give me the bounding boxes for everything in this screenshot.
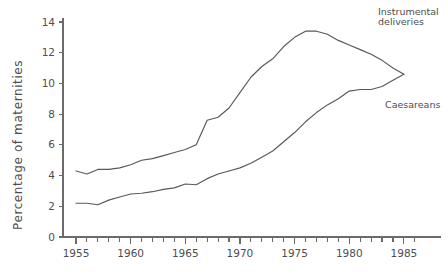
x-tick-label-1980: 1980 xyxy=(336,247,363,259)
y-tick-label-0: 0 xyxy=(48,231,55,243)
chart-svg: Percentage of maternities 02468101214 19… xyxy=(0,0,448,274)
series-label-instrumental-deliveries: Instrumental deliveries xyxy=(378,6,439,27)
series-label-caesareans-text: Caesareans xyxy=(385,99,440,110)
y-tick-label-8: 8 xyxy=(48,108,55,120)
y-tick-label-6: 6 xyxy=(48,138,55,150)
series-line-instrumental-deliveries xyxy=(76,31,404,174)
y-axis-title: Percentage of maternities xyxy=(11,60,25,230)
y-axis-ticks: 02468101214 xyxy=(42,16,63,243)
x-axis-ticks: 1955196019651970197519801985 xyxy=(63,237,418,259)
y-tick-label-2: 2 xyxy=(48,200,55,212)
y-axis-title-text: Percentage of maternities xyxy=(11,60,25,230)
series-line-caesareans xyxy=(76,74,404,205)
x-tick-label-1975: 1975 xyxy=(281,247,308,259)
x-tick-label-1965: 1965 xyxy=(172,247,199,259)
y-tick-label-10: 10 xyxy=(42,77,55,89)
x-tick-label-1985: 1985 xyxy=(391,247,418,259)
series-label-caesareans: Caesareans xyxy=(385,99,440,110)
chart-series-group xyxy=(76,31,404,205)
x-tick-label-1960: 1960 xyxy=(117,247,144,259)
y-tick-label-14: 14 xyxy=(42,16,56,28)
x-tick-label-1970: 1970 xyxy=(227,247,254,259)
y-tick-label-12: 12 xyxy=(42,46,55,58)
x-tick-label-1955: 1955 xyxy=(63,247,90,259)
series-label-instrumental-line2: deliveries xyxy=(378,16,424,27)
chart-figure: Percentage of maternities 02468101214 19… xyxy=(0,0,448,274)
y-tick-label-4: 4 xyxy=(48,169,55,181)
